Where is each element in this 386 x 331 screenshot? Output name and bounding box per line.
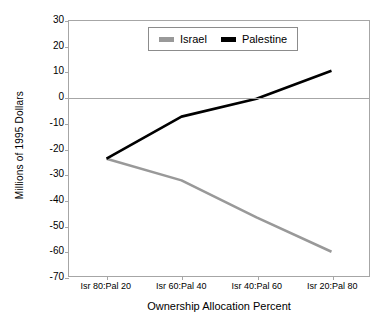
- legend-label-palestine: Palestine: [242, 34, 287, 45]
- x-tick-mark: [182, 276, 183, 280]
- line-chart: Millions of 1995 Dollars 3020100-10-20-3…: [0, 0, 386, 331]
- y-tick-label: -10: [50, 118, 64, 128]
- y-tick-mark: [65, 124, 69, 125]
- legend-item-israel: Israel: [159, 34, 207, 45]
- y-tick-label: 10: [53, 66, 64, 76]
- y-tick-label: -70: [50, 272, 64, 282]
- y-tick-mark: [65, 252, 69, 253]
- y-tick-label: 30: [53, 15, 64, 25]
- y-tick-mark: [65, 175, 69, 176]
- y-tick-mark: [65, 47, 69, 48]
- y-tick-mark: [65, 278, 69, 279]
- x-tick-mark: [258, 276, 259, 280]
- y-tick-label: -50: [50, 221, 64, 231]
- y-tick-mark: [65, 201, 69, 202]
- y-tick-label: -40: [50, 195, 64, 205]
- y-tick-mark: [65, 72, 69, 73]
- y-tick-label: 0: [58, 92, 64, 102]
- legend-item-palestine: Palestine: [221, 34, 287, 45]
- series-line-israel: [107, 159, 332, 252]
- x-tick-label: Isr 60:Pal 40: [156, 281, 207, 291]
- chart-legend: Israel Palestine: [148, 27, 298, 51]
- x-tick-label: Isr 40:Pal 60: [231, 281, 282, 291]
- y-tick-mark: [65, 150, 69, 151]
- y-tick-mark: [65, 227, 69, 228]
- x-tick-label: Isr 80:Pal 20: [80, 281, 131, 291]
- legend-swatch-israel: [159, 37, 174, 42]
- series-line-palestine: [107, 71, 332, 159]
- y-tick-label: -60: [50, 246, 64, 256]
- x-tick-label: Isr 20:Pal 80: [307, 281, 358, 291]
- x-axis-tick-labels: Isr 80:Pal 20Isr 60:Pal 40Isr 40:Pal 60I…: [68, 281, 370, 295]
- y-axis-title: Millions of 1995 Dollars: [14, 91, 25, 199]
- y-tick-label: -20: [50, 144, 64, 154]
- legend-label-israel: Israel: [180, 34, 207, 45]
- x-axis-title: Ownership Allocation Percent: [68, 300, 370, 312]
- legend-swatch-palestine: [221, 37, 236, 42]
- plot-area: [68, 20, 370, 277]
- x-tick-mark: [107, 276, 108, 280]
- x-tick-mark: [333, 276, 334, 280]
- zero-gridline: [69, 98, 369, 99]
- y-axis-title-container: Millions of 1995 Dollars: [8, 0, 30, 290]
- series-lines: [69, 21, 369, 276]
- y-tick-label: 20: [53, 41, 64, 51]
- y-tick-mark: [65, 21, 69, 22]
- y-axis-tick-labels: 3020100-10-20-30-40-50-60-70: [30, 0, 64, 331]
- y-tick-label: -30: [50, 169, 64, 179]
